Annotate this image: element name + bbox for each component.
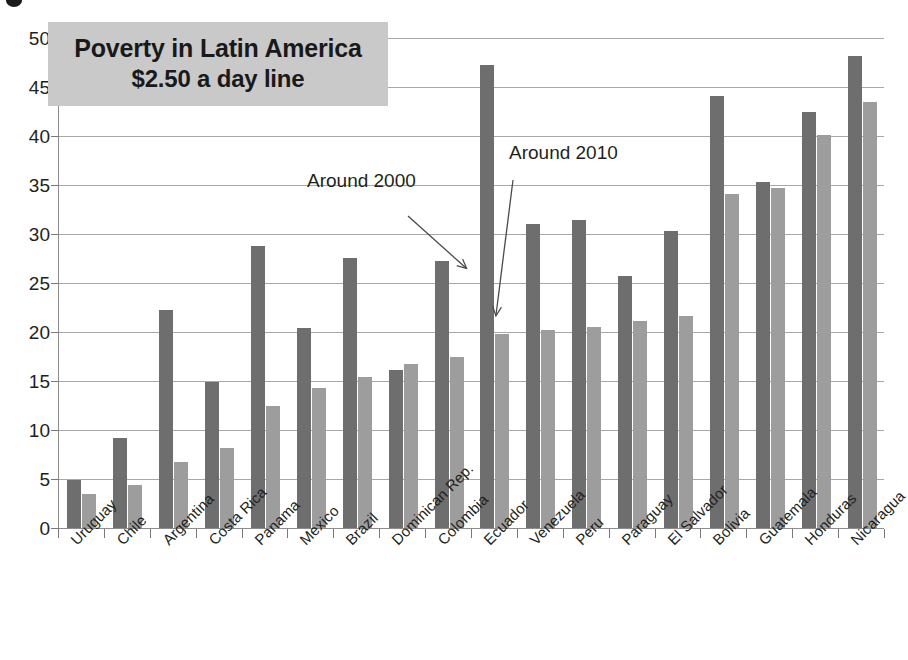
x-tick-16 xyxy=(792,529,793,538)
bar-peru-around-2000 xyxy=(572,220,586,528)
bar-mexico-around-2000 xyxy=(297,328,311,528)
bar-chile-around-2000 xyxy=(113,438,127,528)
bar-bolivia-around-2000 xyxy=(710,96,724,528)
x-tick-7 xyxy=(379,529,380,538)
y-tick-label-5: 5 xyxy=(8,470,50,489)
bar-el-salvador-around-2010 xyxy=(679,316,693,528)
x-tick-4 xyxy=(242,529,243,538)
x-tick-10 xyxy=(517,529,518,538)
bar-honduras-around-2000 xyxy=(802,112,816,529)
bar-venezuela-around-2000 xyxy=(526,224,540,528)
y-tick-label-10: 10 xyxy=(8,421,50,440)
bar-venezuela-around-2010 xyxy=(541,330,555,528)
bar-guatemala-around-2000 xyxy=(756,182,770,528)
y-tick-label-45: 45 xyxy=(8,78,50,97)
x-tick-3 xyxy=(196,529,197,538)
y-tick-label-0: 0 xyxy=(8,519,50,538)
bar-nicaragua-around-2000 xyxy=(848,56,862,528)
x-tick-8 xyxy=(425,529,426,538)
x-tick-1 xyxy=(104,529,105,538)
bar-nicaragua-around-2010 xyxy=(863,102,877,528)
x-tick-12 xyxy=(609,529,610,538)
bar-paraguay-around-2010 xyxy=(633,321,647,528)
x-tick-6 xyxy=(333,529,334,538)
x-tick-14 xyxy=(700,529,701,538)
y-tick-label-15: 15 xyxy=(8,372,50,391)
y-axis-ticks: 50454035302520151050 xyxy=(0,0,50,660)
x-tick-18 xyxy=(884,529,885,538)
bar-peru-around-2010 xyxy=(587,327,601,528)
x-tick-13 xyxy=(655,529,656,538)
bar-bolivia-around-2010 xyxy=(725,194,739,528)
bar-brazil-around-2010 xyxy=(358,377,372,528)
x-tick-11 xyxy=(563,529,564,538)
y-tick-label-20: 20 xyxy=(8,323,50,342)
annotation-around-2010: Around 2010 xyxy=(509,142,618,164)
bar-ecuador-around-2000 xyxy=(480,65,494,528)
bar-honduras-around-2010 xyxy=(817,135,831,528)
x-tick-9 xyxy=(471,529,472,538)
x-tick-0 xyxy=(58,529,59,538)
bar-ecuador-around-2010 xyxy=(495,334,509,528)
bar-guatemala-around-2010 xyxy=(771,188,785,528)
chart-title: Poverty in Latin America xyxy=(74,35,361,62)
bar-uruguay-around-2000 xyxy=(67,480,81,528)
x-tick-2 xyxy=(150,529,151,538)
x-tick-17 xyxy=(838,529,839,538)
y-tick-label-30: 30 xyxy=(8,225,50,244)
y-tick-label-35: 35 xyxy=(8,176,50,195)
bar-paraguay-around-2000 xyxy=(618,276,632,528)
bars-area xyxy=(58,38,884,528)
x-tick-5 xyxy=(287,529,288,538)
bar-argentina-around-2000 xyxy=(159,310,173,528)
bar-dominican-rep-around-2000 xyxy=(389,370,403,528)
y-tick-label-25: 25 xyxy=(8,274,50,293)
bar-colombia-around-2010 xyxy=(450,357,464,528)
bar-brazil-around-2000 xyxy=(343,258,357,528)
bar-dominican-rep-around-2010 xyxy=(404,364,418,528)
annotation-around-2000: Around 2000 xyxy=(307,170,416,192)
y-tick-label-40: 40 xyxy=(8,127,50,146)
y-tick-label-50: 50 xyxy=(8,29,50,48)
chart-title-plaque: Poverty in Latin America $2.50 a day lin… xyxy=(48,22,388,106)
chart-subtitle: $2.50 a day line xyxy=(132,65,305,93)
bar-el-salvador-around-2000 xyxy=(664,231,678,528)
x-tick-15 xyxy=(746,529,747,538)
